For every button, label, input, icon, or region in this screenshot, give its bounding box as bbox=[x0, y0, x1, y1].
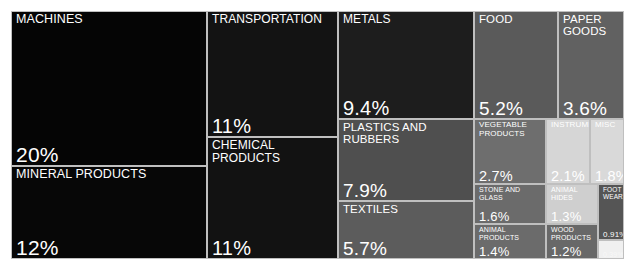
treemap-tile-wood-products[interactable]: WOOD PRODUCTS1.2% bbox=[546, 224, 598, 259]
tile-label: FOOT WEAR bbox=[603, 186, 621, 200]
tile-value: 7.9% bbox=[343, 181, 387, 200]
tile-label: VEGETABLE PRODUCTS bbox=[479, 121, 543, 138]
tile-value: 1.2% bbox=[551, 245, 581, 258]
treemap-tile-paper-goods[interactable]: PAPER GOODS3.6% bbox=[558, 11, 624, 119]
tile-label: STONE AND GLASS bbox=[479, 186, 543, 201]
tile-value: 11% bbox=[212, 116, 251, 136]
treemap-tile-animal-products[interactable]: ANIMAL PRODUCTS1.4% bbox=[474, 224, 546, 259]
tile-label: TRANSPORTATION bbox=[212, 13, 335, 26]
tile-value: 5.2% bbox=[479, 99, 523, 118]
tile-label: CHEMICAL PRODUCTS bbox=[212, 139, 335, 165]
tile-value: 3.6% bbox=[563, 99, 607, 118]
tile-value: 0.91% bbox=[603, 231, 624, 239]
tile-value: 0.39% bbox=[603, 251, 624, 258]
treemap-plot-area: MACHINES20%MINERAL PRODUCTS12%TRANSPORTA… bbox=[11, 11, 624, 259]
tile-value: 11% bbox=[212, 238, 251, 258]
treemap-tile-textiles[interactable]: TEXTILES5.7% bbox=[338, 201, 474, 259]
treemap-tile-metals[interactable]: METALS9.4% bbox=[338, 11, 474, 119]
tile-value: 9.4% bbox=[343, 98, 389, 118]
tile-label: FOOD bbox=[479, 13, 555, 25]
tile-label: MISC bbox=[595, 121, 621, 130]
treemap-tile-vegetable-products[interactable]: VEGETABLE PRODUCTS2.7% bbox=[474, 119, 546, 184]
treemap-tile-machines[interactable]: MACHINES20% bbox=[11, 11, 207, 166]
tile-value: 1.3% bbox=[551, 210, 581, 223]
tile-label: METALS bbox=[343, 13, 471, 26]
treemap-tile-foot-wear[interactable]: FOOT WEAR0.91% bbox=[598, 184, 624, 240]
treemap-tile-arts[interactable]: 0.39% bbox=[598, 240, 624, 259]
tile-label: ANIMAL PRODUCTS bbox=[479, 226, 543, 241]
treemap-tile-animal-hides[interactable]: ANIMAL HIDES1.3% bbox=[546, 184, 598, 224]
tile-label: TEXTILES bbox=[343, 203, 471, 215]
tile-value: 1.6% bbox=[479, 210, 509, 223]
tile-label: PAPER GOODS bbox=[563, 13, 621, 38]
tile-label: INSTRUMENTS bbox=[551, 121, 587, 130]
treemap-chart: MACHINES20%MINERAL PRODUCTS12%TRANSPORTA… bbox=[0, 0, 636, 269]
tile-label: MINERAL PRODUCTS bbox=[16, 168, 204, 182]
treemap-tile-mineral-products[interactable]: MINERAL PRODUCTS12% bbox=[11, 166, 207, 259]
tile-value: 12% bbox=[16, 237, 59, 258]
tile-label: PLASTICS AND RUBBERS bbox=[343, 121, 471, 146]
treemap-tile-chemical-products[interactable]: CHEMICAL PRODUCTS11% bbox=[207, 137, 338, 259]
tile-value: 2.7% bbox=[479, 169, 513, 184]
tile-value: 5.7% bbox=[343, 239, 387, 258]
tile-value: 20% bbox=[16, 144, 59, 165]
treemap-tile-misc[interactable]: MISC1.8% bbox=[590, 119, 624, 184]
tile-value: 1.4% bbox=[479, 245, 509, 258]
tile-value: 1.8% bbox=[595, 169, 624, 184]
treemap-tile-instruments[interactable]: INSTRUMENTS2.1% bbox=[546, 119, 590, 184]
treemap-tile-food[interactable]: FOOD5.2% bbox=[474, 11, 558, 119]
tile-label: MACHINES bbox=[16, 13, 204, 27]
treemap-tile-stone-and-glass[interactable]: STONE AND GLASS1.6% bbox=[474, 184, 546, 224]
tile-label: WOOD PRODUCTS bbox=[551, 226, 595, 241]
treemap-tile-plastics-and-rubbers[interactable]: PLASTICS AND RUBBERS7.9% bbox=[338, 119, 474, 201]
tile-label: ANIMAL HIDES bbox=[551, 186, 595, 201]
tile-value: 2.1% bbox=[551, 169, 585, 184]
treemap-tile-transportation[interactable]: TRANSPORTATION11% bbox=[207, 11, 338, 137]
